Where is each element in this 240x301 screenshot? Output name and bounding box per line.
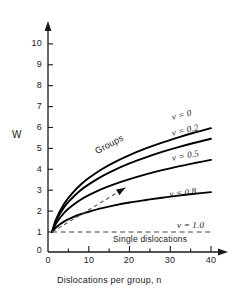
y-tick-label-7: 7: [24, 101, 42, 111]
y-tick-label-8: 8: [24, 80, 42, 90]
y-tick-label-10: 10: [24, 38, 42, 48]
y-tick-label-0: 0: [24, 245, 42, 255]
y-tick-label-2: 2: [24, 206, 42, 216]
y-tick-label-3: 3: [24, 185, 42, 195]
y-tick-label-9: 9: [24, 59, 42, 69]
x-tick-label-30: 30: [160, 255, 180, 265]
y-axis-arrowhead: [45, 21, 52, 31]
chart-figure: 10 9 8 7 6 5 4 3 2 1 0 W 0 10 20 30 40 D…: [0, 0, 240, 301]
y-tick-label-5: 5: [24, 143, 42, 153]
x-tick-label-0: 0: [38, 255, 58, 265]
x-tick-label-20: 20: [119, 255, 139, 265]
x-tick-marks: [68, 246, 211, 252]
x-tick-label-10: 10: [79, 255, 99, 265]
x-axis-title: Dislocations per group, n: [57, 275, 162, 285]
y-tick-label-1: 1: [24, 227, 42, 237]
annotation-single-dislocations: Single dislocations: [113, 234, 187, 244]
curve-label-nu-10: ν = 1.0: [177, 220, 204, 230]
y-axis-title: W: [12, 129, 22, 140]
y-tick-label-6: 6: [24, 122, 42, 132]
x-tick-label-40: 40: [201, 255, 221, 265]
y-tick-label-4: 4: [24, 164, 42, 174]
y-tick-marks: [48, 44, 53, 232]
curve-series-group: [52, 128, 211, 232]
